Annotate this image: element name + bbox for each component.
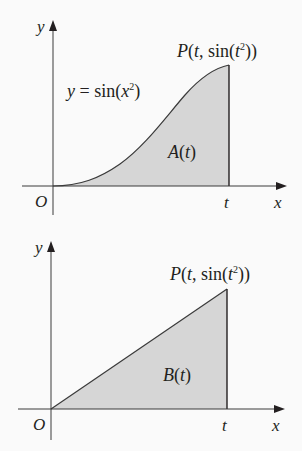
triangle-plot: [0, 225, 302, 451]
y-axis-label: y: [35, 239, 43, 256]
t-tick-label: t: [222, 417, 227, 434]
figure-area-under-curve: y x O t P(t, sin(t2)) y = sin(x2) A(t): [0, 0, 302, 225]
figure-triangle-area: y x O t P(t, sin(t2)) B(t): [0, 225, 302, 451]
area-a-label: A(t): [168, 143, 196, 161]
t-tick-label: t: [224, 194, 229, 211]
x-axis-label: x: [274, 194, 282, 211]
curve-equation-label: y = sin(x2): [67, 82, 140, 100]
y-axis-arrow-icon: [49, 20, 57, 31]
area-b-label: B(t): [163, 366, 191, 384]
origin-label: O: [35, 193, 47, 210]
point-p-label: P(t, sin(t2)): [170, 265, 250, 283]
x-axis-label: x: [272, 417, 280, 434]
point-p-label: P(t, sin(t2)): [177, 42, 257, 60]
y-axis-label: y: [37, 18, 45, 35]
x-axis-arrow-icon: [276, 182, 287, 190]
x-axis-arrow-icon: [274, 405, 285, 413]
y-axis-arrow-icon: [47, 241, 55, 252]
origin-label: O: [33, 416, 45, 433]
